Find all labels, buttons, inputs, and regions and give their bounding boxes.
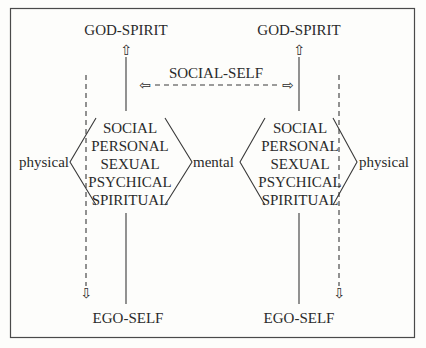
right-layer-psychical: PSYCHICAL [258,174,341,190]
left-god-spirit-label: GOD-SPIRIT [84,22,167,38]
right-layer-spiritual: SPIRITUAL [262,192,339,208]
left-down-arrow-icon: ⇩ [80,285,92,301]
right-layer-social: SOCIAL [273,120,327,136]
right-layer-personal: PERSONAL [261,138,339,154]
connector-right-arrow-icon: ⇨ [282,77,294,93]
left-hexagon-right-edge [165,118,192,205]
left-layer-sexual: SEXUAL [100,156,159,172]
right-god-spirit-label: GOD-SPIRIT [257,22,340,38]
right-ego-self-label: EGO-SELF [264,310,335,326]
left-layer-psychical: PSYCHICAL [88,174,171,190]
right-model: GOD-SPIRIT ⇧ ⇩ SOCIAL PERSONAL SEXUAL PS… [240,22,409,326]
right-physical-label: physical [359,154,409,170]
social-self-label: SOCIAL-SELF [169,65,263,81]
left-layer-social: SOCIAL [103,120,157,136]
social-self-connector: SOCIAL-SELF ⇦ ⇨ [139,65,294,93]
left-physical-label: physical [19,154,69,170]
right-up-arrow-icon: ⇧ [293,42,305,58]
left-ego-self-label: EGO-SELF [93,310,164,326]
left-up-arrow-icon: ⇧ [120,42,132,58]
connector-left-arrow-icon: ⇦ [139,77,151,93]
right-down-arrow-icon: ⇩ [333,285,345,301]
left-layer-spiritual: SPIRITUAL [92,192,169,208]
left-layer-personal: PERSONAL [91,138,169,154]
mental-label: mental [193,154,234,170]
social-self-diagram: GOD-SPIRIT ⇧ ⇩ SOCIAL PERSONAL SEXUAL PS… [0,0,426,348]
right-layer-sexual: SEXUAL [270,156,329,172]
diagram-frame [11,9,415,338]
